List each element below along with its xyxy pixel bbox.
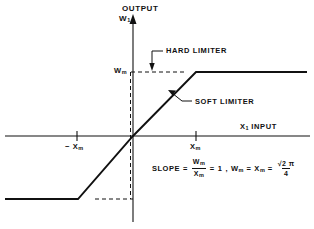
limiter-transfer-diagram [0,0,314,229]
x-axis-title: X1 INPUT [240,122,277,131]
hard-limiter-label: HARD LIMITER [166,46,227,55]
formula-slope-label: SLOPE [152,164,180,173]
x-tick-label-positive-xm-subscript: m [196,145,201,151]
formula-comma: , [225,164,228,173]
y-tick-label-wm-subscript: m [122,69,127,75]
formula-fraction-sqrt2pi-over-4: √2 π 4 [276,160,297,177]
formula-fraction-numerator: Wm [191,158,207,168]
y-axis-symbol-text: W [119,14,127,23]
hard-limiter-leader-arrow-icon [149,63,154,71]
hard-limiter-leader-line [152,51,163,65]
x-axis-title-subscript: 1 [246,125,249,131]
y-tick-label-wm-text: W [114,66,122,75]
x-tick-label-negative-xm-text: − X [65,142,78,151]
formula-equals-4: = [268,164,273,173]
formula-equals-1: = [183,164,188,173]
x-tick-label-negative-xm: − Xm [65,142,83,151]
formula-wm-subscript: m [239,167,244,173]
x-tick-label-positive-xm: Xm [190,142,201,151]
formula-equals-2: = [210,164,215,173]
x-axis-title-rest: INPUT [251,122,277,131]
x-tick-label-negative-xm-subscript: m [78,145,83,151]
slope-formula: SLOPE = Wm Xm = 1 , Wm = Xm = √2 π 4 [152,158,297,178]
y-axis-symbol-subscript: 1 [127,17,130,23]
soft-limiter-label: SOFT LIMITER [195,97,254,106]
formula-fraction-denominator: Xm [192,168,206,179]
formula-fraction-denominator-subscript: m [199,172,204,178]
formula-fraction2-numerator: √2 π [276,160,297,168]
formula-wm: Wm [231,164,243,173]
formula-xm-subscript: m [260,167,265,173]
formula-fraction2-denominator: 4 [282,168,290,177]
formula-fraction-wm-over-xm: Wm Xm [191,158,207,178]
y-axis-arrow-icon [130,14,137,24]
y-axis-symbol: W1 [119,14,130,23]
formula-value-one: 1 [218,164,223,173]
formula-wm-text: W [231,164,239,173]
y-axis-title: OUTPUT [122,4,159,13]
y-tick-label-wm: Wm [114,66,127,75]
formula-fraction-numerator-subscript: m [200,160,205,166]
formula-xm: Xm [254,164,264,173]
formula-equals-3: = [246,164,251,173]
formula-fraction-numerator-text: W [193,158,200,165]
